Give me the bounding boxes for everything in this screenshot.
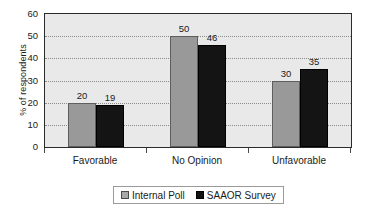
bar-internal-poll [272, 81, 300, 148]
legend-label: Internal Poll [132, 190, 185, 201]
bar-value-label: 46 [192, 33, 232, 43]
y-tick-label: 60 [12, 9, 38, 19]
x-tick-mark [350, 148, 351, 153]
bar-internal-poll [68, 103, 96, 147]
x-tick-label: Favorable [45, 155, 145, 167]
bar-value-label: 35 [294, 57, 334, 67]
bar-internal-poll [170, 36, 198, 147]
bar-value-label: 19 [90, 93, 130, 103]
y-axis-tick-labels: 0102030405060 [12, 7, 38, 143]
plot-area: 201950463035 [44, 13, 352, 148]
x-axis-tick-marks [44, 148, 352, 154]
bar-group: 5046 [147, 14, 249, 147]
gray-swatch-icon [121, 191, 129, 199]
x-tick-mark [248, 148, 249, 153]
y-tick-label: 30 [12, 76, 38, 86]
x-tick-label: Unfavorable [249, 155, 349, 167]
bar-saaor-survey [198, 45, 226, 147]
bar-saaor-survey [300, 69, 328, 147]
y-tick-label: 40 [12, 54, 38, 64]
bar-group: 2019 [45, 14, 147, 147]
y-tick-label: 10 [12, 120, 38, 130]
x-tick-mark [146, 148, 147, 153]
x-tick-label: No Opinion [147, 155, 247, 167]
x-axis-tick-labels: FavorableNo OpinionUnfavorable [44, 155, 352, 169]
y-tick-label: 20 [12, 98, 38, 108]
y-tick-label: 0 [12, 142, 38, 152]
x-tick-mark [44, 148, 45, 153]
bar-series-container: 201950463035 [45, 14, 351, 147]
black-swatch-icon [196, 191, 204, 199]
legend-entry: Internal Poll [121, 190, 185, 201]
legend-label: SAAOR Survey [207, 190, 276, 201]
bar-group: 3035 [249, 14, 351, 147]
bar-saaor-survey [96, 105, 124, 147]
chart-legend: Internal PollSAAOR Survey [113, 186, 284, 204]
legend-entry: SAAOR Survey [196, 190, 276, 201]
y-tick-label: 50 [12, 31, 38, 41]
bar-chart-figure: % of respondents 0102030405060 201950463… [0, 0, 365, 212]
